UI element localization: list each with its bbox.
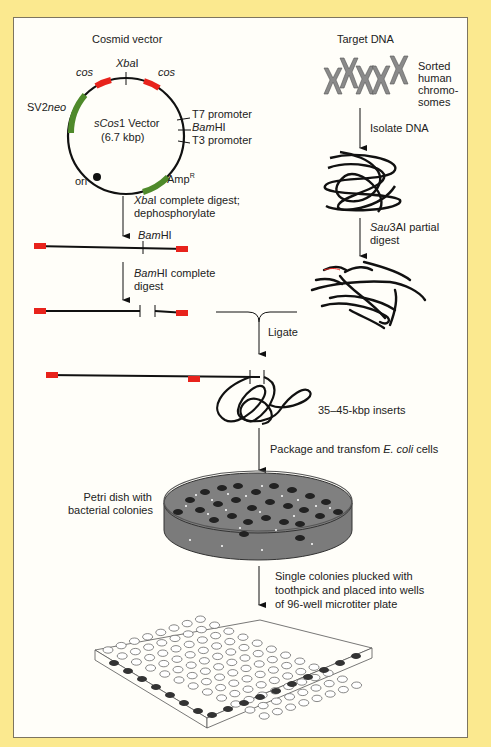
package-label: Package and transfom E. coli cells — [270, 443, 438, 456]
well — [297, 679, 307, 685]
well — [210, 622, 220, 628]
well — [183, 631, 193, 637]
well — [255, 671, 265, 677]
bamhi-vector-label: BamHI — [192, 121, 226, 134]
well — [258, 702, 268, 708]
cosmid-vector-title: Cosmid vector — [92, 33, 162, 46]
e-coli-italic: E. coli — [383, 443, 413, 455]
well — [211, 632, 221, 638]
ligated-cosmid — [46, 370, 311, 424]
bamhi-digest-label: BamHI complete — [134, 267, 215, 280]
well — [241, 665, 251, 671]
chromosome-label-line: Sorted — [418, 60, 458, 72]
dephosphorylate-label: dephosphorylate — [134, 207, 215, 220]
well — [311, 685, 321, 691]
well — [298, 689, 308, 695]
well — [188, 683, 198, 689]
xbai-italic: Xba — [116, 57, 136, 69]
pluck-label-line: Single colonies plucked with — [275, 569, 424, 583]
well — [157, 640, 167, 646]
bamhi-digest-rest: HI complete — [157, 267, 216, 279]
well — [272, 708, 282, 714]
xbai-label: XbaI — [116, 57, 139, 70]
well — [228, 670, 238, 676]
bamhi-digest-italic: Bam — [134, 267, 157, 279]
isolate-dna-label: Isolate DNA — [370, 122, 429, 135]
well — [199, 658, 209, 664]
well — [160, 671, 170, 677]
well — [309, 664, 319, 670]
well — [296, 668, 306, 674]
well — [271, 698, 281, 704]
well — [285, 694, 295, 700]
well — [196, 626, 206, 632]
cos-left-label: cos — [76, 66, 93, 79]
petri-label-line: Petri dish with — [68, 491, 152, 504]
well — [131, 659, 141, 665]
petri-label: Petri dish with bacterial colonies — [68, 491, 152, 517]
well — [337, 676, 347, 682]
well — [197, 637, 207, 643]
xba-digest-rest: I complete digest; — [154, 194, 240, 206]
well — [259, 713, 269, 719]
well — [299, 700, 309, 706]
well — [268, 667, 278, 673]
well — [173, 666, 183, 672]
well — [213, 653, 223, 659]
well — [195, 616, 205, 622]
fragmented-dna — [312, 262, 425, 328]
xbai-rest: I — [136, 57, 139, 69]
well — [286, 704, 296, 710]
ligate-junction — [216, 312, 297, 322]
well — [158, 650, 168, 656]
petri-dish — [164, 471, 352, 560]
well — [144, 644, 154, 650]
well — [295, 658, 305, 664]
bamhi-site-italic: Bam — [138, 229, 161, 241]
linear-vector — [34, 241, 188, 254]
t3-promoter-label: T3 promoter — [192, 134, 252, 147]
petri-label-line: bacterial colonies — [68, 504, 152, 517]
well — [169, 625, 179, 631]
bamhi-site-label: BamHI — [138, 229, 172, 242]
well — [103, 647, 113, 653]
well — [159, 660, 169, 666]
well — [215, 674, 225, 680]
well — [253, 650, 263, 656]
well — [170, 635, 180, 641]
well — [229, 680, 239, 686]
well — [172, 656, 182, 662]
ori-label: ori — [75, 175, 87, 188]
well — [266, 646, 276, 652]
bamhi-italic: Bam — [192, 121, 215, 133]
bamhi-rest: HI — [215, 121, 226, 133]
well — [214, 664, 224, 670]
well — [117, 653, 127, 659]
package-pre: Package and transfom — [270, 443, 383, 455]
vector-name: sCos1 Vector — [94, 117, 159, 130]
bamhi-site-rest: HI — [161, 229, 172, 241]
well — [129, 638, 139, 644]
well — [226, 649, 236, 655]
pluck-label-line: toothpick and placed into wells — [275, 583, 424, 597]
sorted-chromosomes-label: Sorted human chromo- somes — [418, 60, 458, 108]
well — [182, 620, 192, 626]
sv2-text: SV2 — [27, 101, 48, 113]
sau3ai-label: Sau3AI partial — [370, 221, 439, 234]
well — [242, 676, 252, 682]
bamhi-digest-line2: digest — [134, 280, 163, 293]
vector-name-italic: sCos — [94, 117, 119, 129]
well — [239, 644, 249, 650]
chromosome-label-line: somes — [418, 96, 458, 108]
well — [200, 668, 210, 674]
vector-name-rest: 1 Vector — [119, 117, 159, 129]
well — [171, 646, 181, 652]
well — [130, 648, 140, 654]
well — [312, 695, 322, 701]
genomic-dna-tangle — [325, 152, 401, 212]
well — [267, 656, 277, 662]
well — [212, 643, 222, 649]
well — [145, 654, 155, 660]
chromosomes — [324, 56, 408, 94]
t7-promoter-label: T7 promoter — [192, 108, 252, 121]
